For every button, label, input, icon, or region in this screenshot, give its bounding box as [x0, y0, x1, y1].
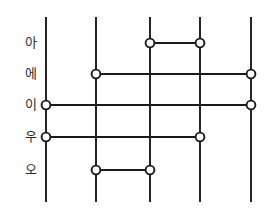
row-label-4: 우 — [18, 130, 44, 143]
row-label-2: 에 — [18, 67, 44, 80]
row-label-5: 오 — [18, 163, 44, 176]
rung-nodes-group — [42, 39, 256, 175]
diagram-canvas: 아에이우오 — [0, 0, 271, 215]
rung-node-1-end — [196, 39, 205, 48]
rung-node-5-start — [92, 166, 101, 175]
rung-node-1-start — [146, 39, 155, 48]
rung-node-4-end — [196, 133, 205, 142]
rung-node-2-end — [247, 70, 256, 79]
rung-node-3-end — [247, 101, 256, 110]
row-label-3: 이 — [18, 98, 44, 111]
horizontal-rungs-group — [46, 43, 251, 170]
row-label-1: 아 — [18, 36, 44, 49]
rung-node-2-start — [92, 70, 101, 79]
rung-node-5-end — [146, 166, 155, 175]
